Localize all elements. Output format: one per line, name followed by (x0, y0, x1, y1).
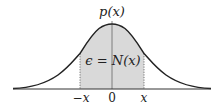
tick-label-right: x (141, 91, 148, 105)
area-label: ϵ = N(x) (85, 53, 140, 68)
normal-distribution-diagram: p(x) ϵ = N(x) −x 0 x (0, 0, 220, 106)
tick-label-center: 0 (108, 91, 116, 105)
y-axis-label: p(x) (99, 4, 125, 19)
tick-label-left: −x (73, 91, 90, 105)
